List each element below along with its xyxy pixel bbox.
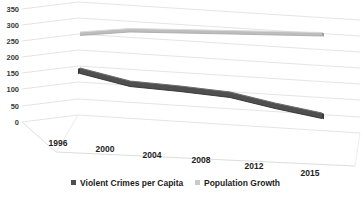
y-tick-label: 150: [6, 69, 19, 78]
y-tick-label: 100: [6, 85, 19, 94]
gridline-250: [22, 34, 360, 52]
gridline-350: [22, 2, 360, 20]
x-tick-label: 2015: [301, 168, 320, 178]
y-tick-label: 50: [11, 102, 19, 111]
legend-swatch-violent-crimes: [71, 180, 76, 185]
y-tick-label: 0: [15, 118, 19, 127]
legend-swatch-population-growth: [195, 180, 200, 185]
x-tick-label: 2000: [96, 144, 115, 154]
x-tick-label: 1996: [49, 138, 68, 148]
series-dark-end-cap: [322, 113, 324, 119]
floor-front-edge: [22, 122, 355, 166]
y-tick-label: 350: [6, 5, 19, 14]
floor-right-edge: [355, 133, 360, 166]
chart-legend: Violent Crimes per Capita Population Gro…: [71, 178, 280, 188]
x-tick-label: 2008: [192, 155, 211, 165]
x-tick-label: 2004: [143, 150, 162, 160]
y-tick-label: 250: [6, 37, 19, 46]
gridline-150: [22, 66, 360, 84]
chart-3d-line: 350 300 250 200 150 100 50 0: [0, 0, 363, 199]
y-tick-label: 200: [6, 53, 19, 62]
x-tick-label: 2012: [245, 161, 264, 171]
chart-canvas: 350 300 250 200 150 100 50 0: [0, 0, 363, 199]
series-population-growth: [80, 29, 324, 37]
y-axis-labels: 350 300 250 200 150 100 50 0: [6, 5, 19, 127]
series-violent-crimes: [78, 68, 324, 119]
legend-label-violent-crimes: Violent Crimes per Capita: [80, 178, 184, 188]
y-tick-label: 300: [6, 21, 19, 30]
series-light-end-cap: [322, 33, 324, 37]
legend-label-population-growth: Population Growth: [204, 178, 280, 188]
series-dark-start-cap: [78, 68, 80, 74]
gridline-200: [22, 50, 360, 68]
